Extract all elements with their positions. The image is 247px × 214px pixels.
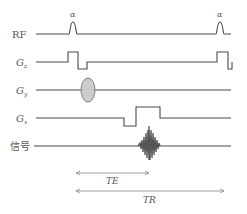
row-label-signal: 信号: [10, 141, 30, 152]
gx-waveform: [36, 107, 231, 126]
phase-encode-lobe: [81, 78, 95, 102]
svg-text:G: G: [16, 85, 24, 96]
row-label-rf: RF: [12, 29, 27, 40]
row-label-gy: G y: [16, 85, 28, 98]
echo-signal: [138, 126, 160, 160]
rf-pulse-alpha-label-2: α: [217, 10, 223, 19]
tr-label: TR: [143, 195, 156, 205]
svg-text:y: y: [23, 90, 28, 98]
pulse-sequence-diagram: RF G z G y G x 信号 α α TE: [0, 0, 247, 214]
svg-text:G: G: [16, 57, 24, 68]
rf-pulse-alpha-label-1: α: [70, 10, 76, 19]
signal-waveform: [34, 126, 231, 160]
svg-text:x: x: [24, 118, 28, 125]
tr-interval: [76, 189, 224, 193]
gy-waveform: [36, 78, 231, 102]
svg-text:z: z: [23, 62, 28, 69]
te-interval: [76, 171, 149, 175]
row-label-gz: G z: [16, 57, 28, 69]
svg-text:G: G: [16, 113, 24, 124]
rf-waveform: [36, 22, 231, 34]
te-label: TE: [106, 176, 119, 186]
gz-waveform: [36, 52, 232, 69]
row-label-gx: G x: [16, 113, 28, 125]
